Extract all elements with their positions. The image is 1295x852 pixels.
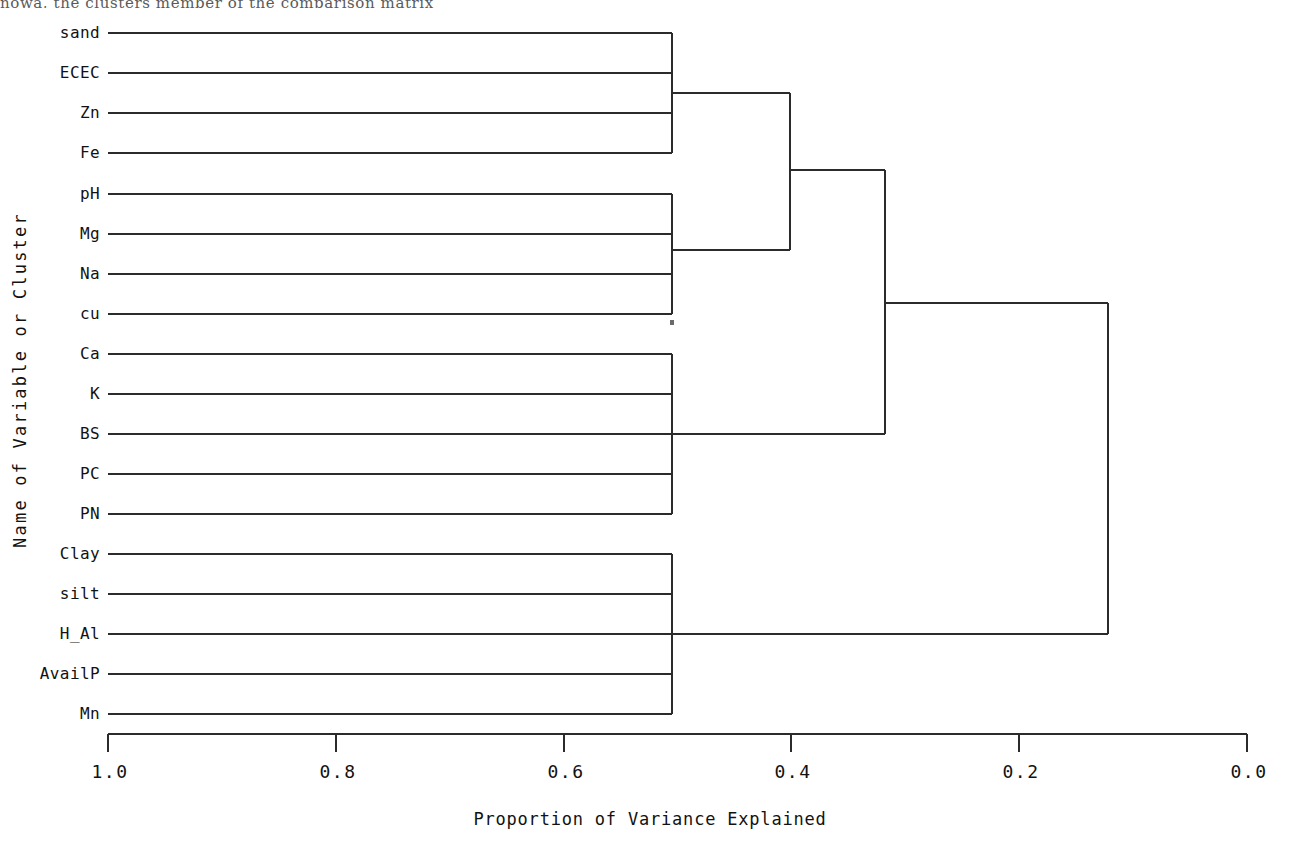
x-tick-label: 1.0 — [91, 761, 128, 782]
dendrogram-figure: nowa, the clusters member of the compari… — [0, 0, 1295, 852]
dendrogram-tree — [108, 33, 1108, 714]
leaf-label: Na — [80, 264, 100, 283]
leaf-label: Mn — [80, 704, 100, 723]
leaf-label: ECEC — [60, 63, 100, 82]
x-tick-label: 0.2 — [1002, 761, 1039, 782]
leaf-label: silt — [60, 584, 100, 603]
leaf-label-group: sand ECEC Zn Fe pH Mg Na cu Ca K BS PC P… — [40, 23, 100, 723]
leaf-label: Zn — [80, 103, 100, 122]
leaf-label: PN — [80, 504, 100, 523]
leaf-label: Fe — [80, 143, 100, 162]
leaf-label: pH — [80, 184, 100, 203]
x-tick-label: 0.0 — [1230, 761, 1267, 782]
leaf-label: sand — [60, 23, 100, 42]
leaf-label: H_Al — [60, 624, 100, 643]
dendrogram-plot: Name of Variable or Cluster sand ECEC Zn… — [0, 0, 1295, 852]
leaf-label: Mg — [80, 224, 100, 243]
y-axis-title: Name of Variable or Cluster — [10, 212, 30, 548]
leaf-label: Clay — [60, 544, 100, 563]
x-tick-label: 0.6 — [547, 761, 584, 782]
leaf-label: Ca — [80, 344, 100, 363]
x-axis: 1.0 0.8 0.6 0.4 0.2 0.0 Proportion of Va… — [91, 734, 1267, 829]
leaf-label: PC — [80, 464, 100, 483]
x-tick-label: 0.4 — [774, 761, 811, 782]
leaf-label: BS — [80, 424, 100, 443]
x-axis-title: Proportion of Variance Explained — [473, 809, 826, 829]
leaf-label: AvailP — [40, 664, 100, 683]
x-tick-label: 0.8 — [319, 761, 356, 782]
leaf-label: K — [90, 384, 100, 403]
print-artifact-mark — [670, 320, 674, 325]
leaf-label: cu — [80, 304, 100, 323]
